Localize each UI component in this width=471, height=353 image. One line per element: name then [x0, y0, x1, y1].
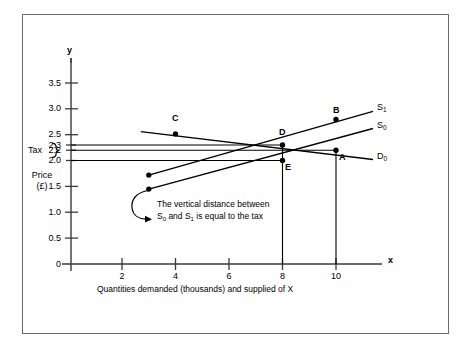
curve-label-s0: S0 [377, 121, 387, 130]
y-tick-label-3-5: 3.5 [40, 79, 61, 88]
tax-bracket-label: Tax [28, 146, 42, 155]
curve-label-s0-sub: 0 [383, 124, 387, 131]
annotation-line-1: The vertical distance between [157, 199, 269, 211]
point-label-e: E [285, 163, 291, 172]
data-point-markers [146, 117, 339, 192]
curve-label-s1-sub: 1 [383, 106, 387, 113]
annotation-line-2: S0 and S1 is equal to the tax [157, 211, 269, 224]
data-point-a [333, 148, 338, 153]
data-point-s1-origin [146, 172, 151, 177]
curve-label-d0-sub: 0 [384, 155, 388, 162]
y-axis-title-line-2: (£) [25, 181, 59, 192]
y-tick-label-3-0: 3.0 [40, 104, 61, 113]
annotation-text: The vertical distance between S0 and S1 … [157, 199, 269, 223]
annotation-leader-arrow [132, 191, 152, 223]
y-tick-label-2-0: 2.0 [40, 156, 61, 165]
x-tick-label-8: 8 [273, 272, 293, 281]
curve-label-s1: S1 [377, 103, 387, 112]
x-tick-label-2: 2 [112, 272, 132, 281]
y-tick-label-2-5: 2.5 [40, 130, 61, 139]
horizontal-reference-lines [71, 145, 336, 161]
point-label-c: C [172, 114, 179, 123]
point-label-b: B [333, 106, 340, 115]
y-axis-title-line-1: Price [25, 170, 59, 181]
annotation-mid-text: and S [166, 211, 191, 221]
data-point-c [173, 131, 178, 136]
data-point-b [333, 117, 338, 122]
point-label-d: D [279, 128, 286, 137]
y-tick-label-1-0: 1.0 [40, 208, 61, 217]
y-tick-label-0-5: 0.5 [40, 234, 61, 243]
x-tick-label-10: 10 [326, 272, 346, 281]
curve-label-d0: D0 [377, 152, 387, 161]
point-label-a: A [339, 153, 346, 162]
y-axis-title: Price (£) [25, 170, 59, 191]
annotation-s0-sub: 0 [163, 216, 166, 222]
y-tick-label-2-2: 2.2 [40, 146, 61, 155]
y-axis-letter: y [67, 46, 72, 55]
y-tick-label-0: 0 [40, 260, 61, 269]
x-axis-letter: x [388, 256, 393, 265]
curve-label-d0-text: D [377, 151, 384, 161]
figure-container: 3.5 3.0 2.5 2.3 2.2 2.0 1.5 1.0 0.5 0 2 … [0, 0, 471, 353]
x-tick-label-4: 4 [166, 272, 186, 281]
annotation-s0-letter: S [157, 211, 163, 221]
x-axis-caption: Quantities demanded (thousands) and supp… [97, 285, 293, 294]
axis-lines [62, 58, 382, 271]
x-tick-label-6: 6 [219, 272, 239, 281]
annotation-tail-text: is equal to the tax [194, 211, 263, 221]
data-point-d [280, 142, 285, 147]
curve-supply-s1 [149, 111, 373, 175]
annotation-s1-sub: 1 [191, 216, 194, 222]
